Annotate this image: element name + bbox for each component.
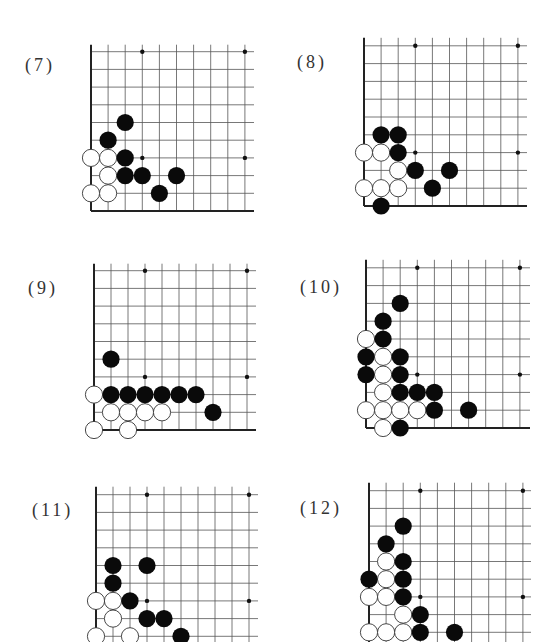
white-stone (85, 386, 102, 403)
white-stone (360, 624, 377, 641)
black-stone (373, 126, 390, 143)
white-stone (357, 330, 374, 347)
black-stone (138, 557, 155, 574)
white-stone (100, 149, 117, 166)
white-stone (355, 180, 372, 197)
white-stone (373, 144, 390, 161)
white-stone (355, 144, 372, 161)
black-stone (412, 624, 429, 641)
white-stone (375, 366, 392, 383)
white-stone (395, 624, 412, 641)
black-stone (102, 351, 119, 368)
black-stone (119, 386, 136, 403)
black-stone (390, 126, 407, 143)
black-stone (407, 162, 424, 179)
black-stone (117, 114, 134, 131)
star-point (243, 50, 247, 54)
black-stone (360, 571, 377, 588)
white-stone (104, 592, 121, 609)
white-stone (395, 606, 412, 623)
black-stone (392, 366, 409, 383)
white-stone (82, 149, 99, 166)
star-point (415, 266, 419, 270)
black-stone (117, 167, 134, 184)
star-point (140, 50, 144, 54)
white-stone (104, 610, 121, 627)
star-point (247, 599, 251, 603)
go-board-11 (87, 487, 258, 642)
star-point (245, 269, 249, 273)
white-stone (409, 402, 426, 419)
white-stone (392, 402, 409, 419)
star-point (413, 150, 417, 154)
white-stone (357, 402, 374, 419)
star-point (145, 599, 149, 603)
white-stone (100, 167, 117, 184)
black-stone (375, 330, 392, 347)
star-point (140, 156, 144, 160)
white-stone (85, 421, 102, 438)
go-board-8 (355, 38, 527, 215)
white-stone (87, 628, 104, 642)
white-stone (87, 592, 104, 609)
black-stone (100, 132, 117, 149)
star-point (145, 493, 149, 497)
black-stone (151, 185, 168, 202)
black-stone (392, 295, 409, 312)
black-stone (172, 628, 189, 642)
star-point (413, 44, 417, 48)
black-stone (204, 404, 221, 421)
go-board-9 (85, 264, 256, 439)
white-stone (153, 404, 170, 421)
white-stone (378, 624, 395, 641)
black-stone (395, 588, 412, 605)
black-stone (121, 592, 138, 609)
go-board-7 (82, 45, 254, 211)
star-point (418, 595, 422, 599)
black-stone (187, 386, 204, 403)
white-stone (136, 404, 153, 421)
white-stone (375, 348, 392, 365)
star-point (415, 372, 419, 376)
black-stone (392, 348, 409, 365)
black-stone (409, 384, 426, 401)
star-point (518, 266, 522, 270)
black-stone (357, 366, 374, 383)
black-stone (102, 386, 119, 403)
black-stone (117, 149, 134, 166)
white-stone (378, 553, 395, 570)
black-stone (412, 606, 429, 623)
star-point (247, 493, 251, 497)
black-stone (170, 386, 187, 403)
go-diagrams-canvas (0, 0, 551, 642)
black-stone (395, 571, 412, 588)
black-stone (373, 197, 390, 214)
star-point (418, 489, 422, 493)
black-stone (168, 167, 185, 184)
black-stone (104, 575, 121, 592)
black-stone (392, 419, 409, 436)
white-stone (378, 571, 395, 588)
black-stone (424, 180, 441, 197)
star-point (516, 150, 520, 154)
white-stone (375, 384, 392, 401)
star-point (243, 156, 247, 160)
black-stone (134, 167, 151, 184)
black-stone (136, 386, 153, 403)
star-point (521, 489, 525, 493)
black-stone (375, 313, 392, 330)
white-stone (390, 162, 407, 179)
black-stone (138, 610, 155, 627)
star-point (521, 595, 525, 599)
black-stone (446, 624, 463, 641)
black-stone (426, 402, 443, 419)
go-board-12 (360, 483, 531, 642)
white-stone (378, 588, 395, 605)
star-point (518, 372, 522, 376)
black-stone (395, 553, 412, 570)
white-stone (373, 180, 390, 197)
go-board-10 (357, 260, 530, 437)
black-stone (441, 162, 458, 179)
black-stone (357, 348, 374, 365)
black-stone (392, 384, 409, 401)
